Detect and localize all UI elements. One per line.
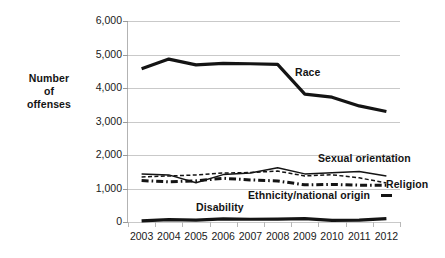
y-tick-label-3000: 3,000	[74, 115, 122, 127]
y-axis-tick-labels: 01,0002,0003,0004,0005,0006,000	[72, 21, 122, 222]
x-tick-1	[155, 222, 156, 227]
x-tick-7	[318, 222, 319, 227]
series-line-disability	[142, 219, 387, 221]
x-tick-label-2009: 2009	[293, 230, 316, 242]
x-tick-10	[400, 222, 401, 227]
x-tick-label-2010: 2010	[320, 230, 343, 242]
x-tick-label-2012: 2012	[375, 230, 398, 242]
x-tick-label-2004: 2004	[157, 230, 180, 242]
x-tick-5	[264, 222, 265, 227]
x-tick-label-2007: 2007	[239, 230, 262, 242]
y-tick-label-2000: 2,000	[74, 148, 122, 160]
series-label-disability: Disability	[196, 201, 244, 213]
x-axis-tick-labels: 2003200420052006200720082009201020112012	[128, 230, 400, 244]
x-tick-0	[128, 222, 129, 227]
x-tick-label-2005: 2005	[184, 230, 207, 242]
x-tick-label-2008: 2008	[266, 230, 289, 242]
series-label-ethnicity-national-origin: Ethnicity/national origin	[248, 189, 370, 201]
series-label-sexual-orientation: Sexual orientation	[318, 152, 411, 164]
x-tick-2	[182, 222, 183, 227]
x-tick-label-2011: 2011	[348, 230, 371, 242]
hate-crime-offenses-line-chart: Number of offenses 01,0002,0003,0004,000…	[0, 0, 445, 258]
ethnicity-line-swatch-icon	[381, 194, 392, 197]
series-line-ethnicity-national-origin	[142, 178, 387, 185]
y-tick-label-0: 0	[74, 215, 122, 227]
x-tick-label-2006: 2006	[212, 230, 235, 242]
y-tick-label-6000: 6,000	[74, 14, 122, 26]
x-tick-label-2003: 2003	[130, 230, 153, 242]
series-label-religion: Religion	[386, 178, 428, 190]
x-tick-4	[237, 222, 238, 227]
x-tick-6	[291, 222, 292, 227]
x-tick-3	[210, 222, 211, 227]
y-tick-label-5000: 5,000	[74, 48, 122, 60]
y-tick-label-1000: 1,000	[74, 182, 122, 194]
y-tick-label-4000: 4,000	[74, 81, 122, 93]
x-tick-9	[373, 222, 374, 227]
series-label-race: Race	[295, 66, 321, 78]
series-line-race	[142, 59, 387, 111]
x-tick-8	[346, 222, 347, 227]
